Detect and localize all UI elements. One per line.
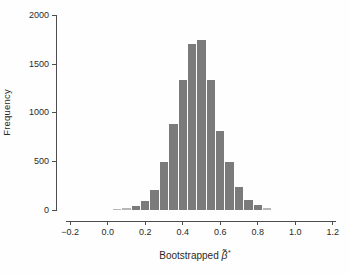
x-tick-label: 0.0 [92, 227, 124, 238]
histogram-bar [225, 162, 233, 210]
y-tick [52, 15, 57, 16]
x-tick-label: 0.6 [204, 227, 236, 238]
y-tick [52, 161, 57, 162]
histogram-bar [263, 208, 271, 210]
histogram-bar [216, 131, 224, 210]
x-tick-label: 0.4 [167, 227, 199, 238]
histogram-bar [122, 208, 130, 210]
y-tick-label: 2000 [17, 10, 49, 21]
histogram-bar [160, 162, 168, 210]
x-tick-label: 1.2 [317, 227, 349, 238]
x-tick [145, 221, 146, 226]
y-tick-label: 1000 [17, 107, 49, 118]
y-tick [52, 64, 57, 65]
x-tick [332, 221, 333, 226]
superscript-star: * [228, 249, 231, 256]
histogram-bar [254, 205, 262, 210]
histogram-figure: 0500100015002000 −0.20.00.20.40.60.81.01… [0, 0, 350, 274]
beta-tilde-symbol: β̃ [222, 249, 228, 261]
x-tick-label: 0.2 [129, 227, 161, 238]
x-tick [107, 221, 108, 226]
y-tick-label: 0 [17, 205, 49, 216]
histogram-bar [179, 80, 187, 210]
x-tick [70, 221, 71, 226]
x-axis-title: Bootstrapped β̃* [95, 249, 295, 261]
y-axis-title: Frequency [1, 71, 12, 155]
histogram-bar [141, 201, 149, 210]
x-axis-title-text: Bootstrapped [159, 250, 221, 261]
histogram-bar [207, 80, 215, 210]
x-tick [220, 221, 221, 226]
histogram-bar [150, 190, 158, 210]
histogram-bar [132, 206, 140, 210]
x-tick-label: 0.8 [242, 227, 274, 238]
histogram-bar [169, 124, 177, 210]
y-tick-label: 500 [17, 156, 49, 167]
y-tick [52, 210, 57, 211]
histogram-bar [113, 209, 121, 210]
histogram-bar [188, 44, 196, 210]
y-tick [52, 112, 57, 113]
y-tick-label: 1500 [17, 59, 49, 70]
x-tick-label: 1.0 [279, 227, 311, 238]
x-tick [295, 221, 296, 226]
x-tick [182, 221, 183, 226]
x-tick [257, 221, 258, 226]
x-tick-label: −0.2 [54, 227, 86, 238]
histogram-bar [235, 187, 243, 210]
histogram-bar [244, 200, 252, 210]
histogram-bar [197, 40, 205, 210]
